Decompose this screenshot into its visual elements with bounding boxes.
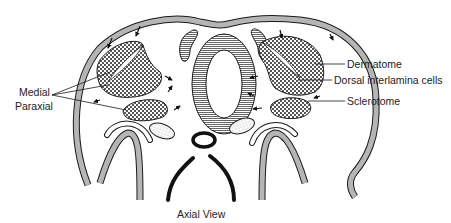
right-sclerotome [271, 98, 311, 119]
label-paraxial: Paraxial [15, 100, 53, 112]
embryo-axial-diagram: Medial Paraxial Dermatome Dorsal interla… [0, 0, 451, 223]
right-aorta-arc [210, 156, 234, 200]
left-hatched-body [180, 30, 198, 61]
right-grey-arch [262, 133, 305, 200]
left-grey-arch [100, 133, 140, 200]
figure-caption: Axial View [177, 208, 226, 220]
left-dermatome [97, 41, 162, 97]
left-sclerotome [123, 100, 167, 121]
notochord [193, 133, 215, 147]
label-dorsal-interlamina-cells: Dorsal interlamina cells [334, 74, 443, 86]
label-sclerotome: Sclerotome [347, 95, 400, 107]
left-aorta-arc [168, 158, 193, 200]
right-dermatome [259, 36, 324, 95]
label-medial: Medial [19, 86, 50, 98]
label-dermatome: Dermatome [347, 58, 402, 70]
